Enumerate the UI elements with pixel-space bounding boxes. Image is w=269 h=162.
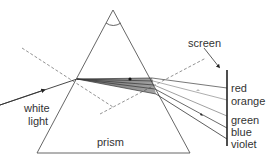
spectrum-label-blue: blue	[231, 126, 252, 138]
apex-angle-arc	[106, 23, 121, 26]
screen-pointer-arrow	[204, 48, 219, 67]
screen-label: screen	[188, 37, 221, 49]
spectrum-label-red: red	[231, 82, 247, 94]
spectrum-label-orange: orange	[231, 95, 265, 107]
emergent-rays	[152, 78, 227, 139]
ray-red	[152, 78, 227, 88]
prism-label: prism	[97, 136, 124, 148]
diagram-canvas	[0, 0, 269, 162]
prism-dispersion-diagram: screen white light prism red orange gree…	[0, 0, 269, 162]
ray-green	[154, 85, 227, 116]
normal-line-left	[22, 48, 113, 107]
white-light-label-line2: light	[28, 115, 48, 127]
spectrum-label-green: green	[231, 114, 259, 126]
refracted-beam-inside	[77, 77, 156, 94]
white-light-label-line1: white	[24, 102, 50, 114]
ray-orange	[153, 81, 227, 100]
spectrum-label-violet: violet	[231, 138, 257, 150]
